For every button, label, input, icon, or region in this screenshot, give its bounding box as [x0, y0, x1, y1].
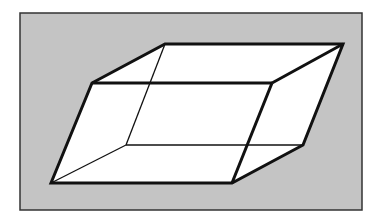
parallelepiped-figure: [0, 0, 378, 222]
